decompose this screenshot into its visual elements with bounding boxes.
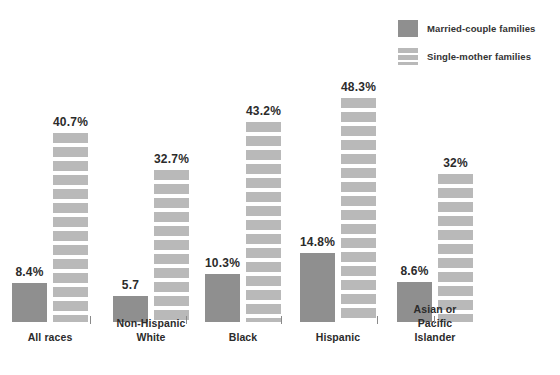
category-label-line: Non-Hispanic (113, 316, 189, 330)
category-label-line: Hispanic (300, 330, 376, 344)
bar-group: 10.3%43.2%Black (205, 0, 281, 375)
bar-married-couple[interactable]: 8.4% (12, 283, 47, 322)
category-label: Non-HispanicWhite (113, 316, 189, 344)
bar-value-label: 5.7 (122, 278, 139, 292)
category-label: Asian orPacific Islander (397, 302, 473, 344)
bar-rect[interactable] (300, 253, 335, 322)
bar-group: 5.732.7%Non-HispanicWhite (113, 0, 189, 375)
bar-group: 8.6%32%Asian orPacific Islander (397, 0, 473, 375)
category-label: All races (12, 330, 88, 344)
bar-value-label: 32.7% (154, 152, 189, 166)
bar-single-mother[interactable]: 40.7% (53, 133, 88, 322)
bar-value-label: 32% (443, 156, 468, 170)
bar-single-mother[interactable]: 48.3% (341, 98, 376, 322)
bar-group-bars: 8.6%32% (397, 174, 473, 322)
bar-value-label: 43.2% (246, 104, 281, 118)
bar-value-label: 48.3% (341, 80, 376, 94)
category-label: Hispanic (300, 330, 376, 344)
bar-rect[interactable] (341, 98, 376, 322)
bar-group-bars: 5.732.7% (113, 170, 189, 322)
bar-group: 8.4%40.7%All races (12, 0, 88, 375)
axis-tick (377, 316, 378, 324)
bar-group-bars: 8.4%40.7% (12, 133, 88, 322)
chart-container: Married-couple families Single-mother fa… (0, 0, 560, 375)
category-label-line: Black (205, 330, 281, 344)
category-label-line: All races (12, 330, 88, 344)
bar-value-label: 8.4% (15, 265, 43, 279)
bar-group-bars: 10.3%43.2% (205, 122, 281, 322)
bar-rect[interactable] (246, 122, 281, 322)
axis-tick (186, 316, 187, 324)
bar-single-mother[interactable]: 32% (438, 174, 473, 322)
bar-value-label: 14.8% (300, 235, 335, 249)
axis-tick (281, 316, 282, 324)
bar-rect[interactable] (438, 174, 473, 322)
bar-value-label: 8.6% (400, 264, 428, 278)
bar-married-couple[interactable]: 10.3% (205, 274, 240, 322)
axis-tick (434, 316, 435, 324)
bar-rect[interactable] (154, 170, 189, 322)
bar-rect[interactable] (205, 274, 240, 322)
bar-single-mother[interactable]: 43.2% (246, 122, 281, 322)
bar-value-label: 10.3% (205, 256, 240, 270)
axis-tick (90, 316, 91, 324)
bar-rect[interactable] (53, 133, 88, 322)
bar-group-bars: 14.8%48.3% (300, 98, 376, 322)
plot-area: 8.4%40.7%All races5.732.7%Non-HispanicWh… (0, 0, 560, 375)
category-label-line: White (113, 330, 189, 344)
bar-rect[interactable] (12, 283, 47, 322)
category-label: Black (205, 330, 281, 344)
bar-value-label: 40.7% (53, 115, 88, 129)
bar-group: 14.8%48.3%Hispanic (300, 0, 376, 375)
category-label-line: Pacific Islander (397, 316, 473, 344)
bar-married-couple[interactable]: 14.8% (300, 253, 335, 322)
category-label-line: Asian or (397, 302, 473, 316)
bar-single-mother[interactable]: 32.7% (154, 170, 189, 322)
